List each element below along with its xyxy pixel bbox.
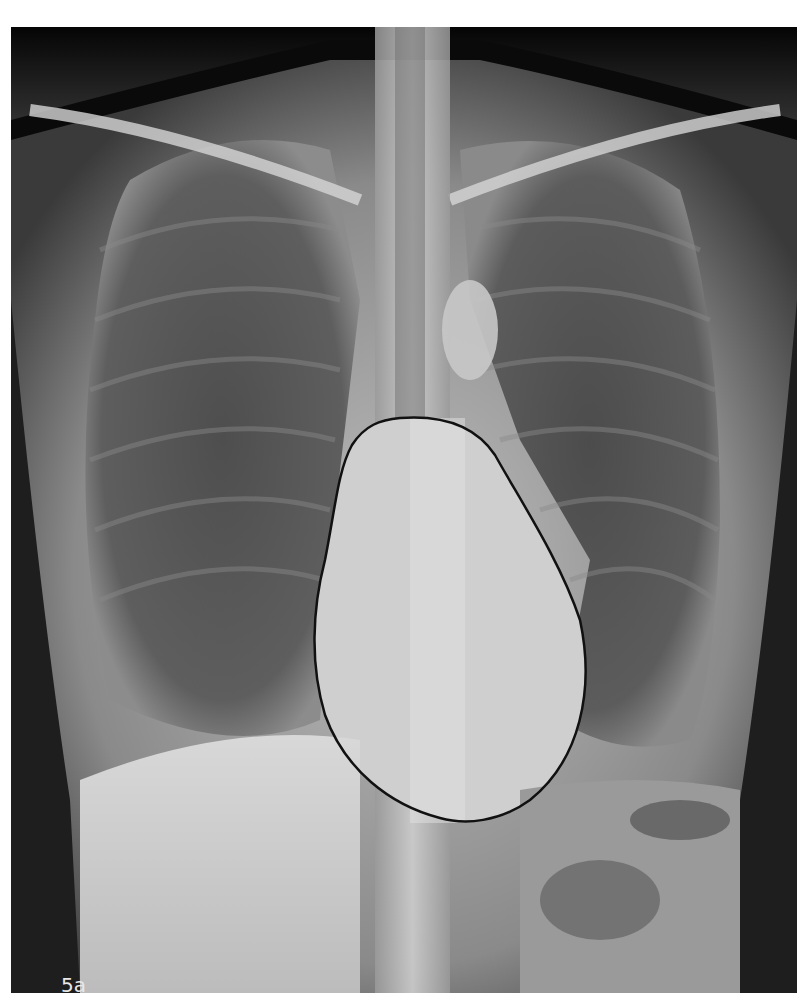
figure-label: 5a (61, 973, 86, 993)
xray-graphic (11, 27, 797, 993)
xray-image: 5a (11, 27, 797, 993)
